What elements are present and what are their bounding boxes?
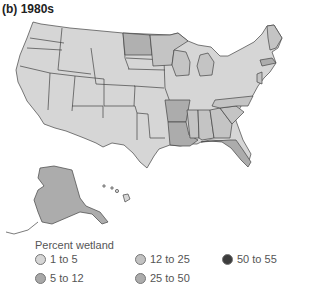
legend-swatch-icon [222, 254, 233, 265]
legend-item-5-to-12: 5 to 12 [35, 272, 84, 284]
legend-label: 12 to 25 [150, 253, 190, 265]
legend-swatch-icon [135, 254, 146, 265]
legend-label: 5 to 12 [50, 272, 84, 284]
legend-title: Percent wetland [35, 239, 114, 251]
legend-swatch-icon [135, 273, 146, 284]
legend-label: 1 to 5 [50, 253, 78, 265]
state-new-jersey [257, 72, 262, 84]
legend-swatch-icon [35, 273, 46, 284]
state-north-dakota [123, 33, 152, 55]
state-hawaii [103, 185, 130, 202]
legend-item-1-to-5: 1 to 5 [35, 253, 78, 265]
legend-swatch-icon [35, 254, 46, 265]
state-alaska [34, 166, 108, 224]
legend-item-50-to-55: 50 to 55 [222, 253, 277, 265]
legend-item-25-to-50: 25 to 50 [135, 272, 190, 284]
state-maine [267, 25, 282, 50]
legend-label: 50 to 55 [237, 253, 277, 265]
state-arkansas [165, 100, 190, 122]
legend-item-12-to-25: 12 to 25 [135, 253, 190, 265]
legend-label: 25 to 50 [150, 272, 190, 284]
